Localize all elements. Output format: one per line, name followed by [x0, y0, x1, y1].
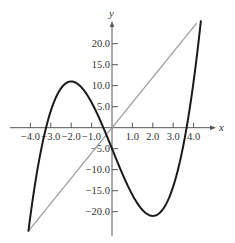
y-axis-arrow-icon — [110, 21, 114, 27]
x-tick-label: −2.0 — [62, 131, 81, 142]
y-tick-label: 15.0 — [92, 59, 110, 70]
x-tick-label: 4.0 — [187, 131, 200, 142]
y-tick-label: −10.0 — [86, 164, 110, 175]
line-series — [28, 23, 196, 231]
x-axis-label: x — [218, 121, 224, 133]
x-axis-arrow-icon — [210, 126, 216, 130]
x-tick-label: −1.0 — [82, 131, 101, 142]
x-tick-label: 2.0 — [146, 131, 159, 142]
x-tick-label: 1.0 — [126, 131, 139, 142]
y-tick-label: −15.0 — [86, 185, 110, 196]
x-ticks: −4.0−3.0−2.0−1.01.02.03.04.0 — [21, 123, 200, 142]
y-axis-label: y — [108, 7, 114, 19]
y-tick-label: 10.0 — [92, 80, 110, 91]
function-plot: x y −4.0−3.0−2.0−1.01.02.03.04.0 20.015.… — [0, 0, 235, 243]
y-tick-label: −5.0 — [91, 143, 110, 154]
x-tick-label: 3.0 — [167, 131, 180, 142]
y-tick-label: 5.0 — [97, 101, 110, 112]
plot-series — [28, 20, 201, 231]
y-tick-label: 20.0 — [92, 38, 110, 49]
y-tick-label: −20.0 — [86, 206, 110, 217]
x-tick-label: −4.0 — [21, 131, 40, 142]
